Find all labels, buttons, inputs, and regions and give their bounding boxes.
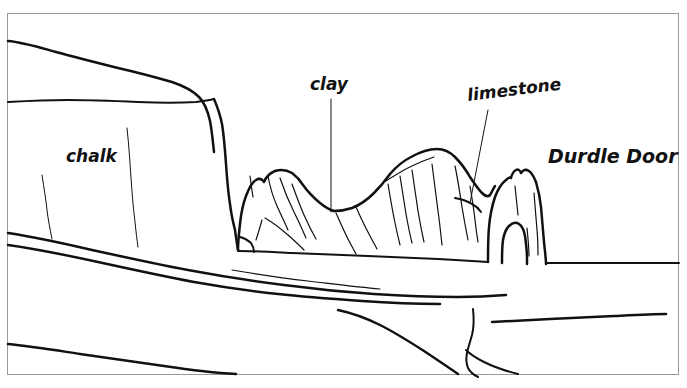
figure-frame — [8, 14, 679, 375]
label-clay: clay — [310, 74, 349, 94]
durdle-door-sketch: chalk clay limestone Durdle Door — [0, 0, 687, 388]
label-chalk: chalk — [66, 146, 118, 166]
figure-canvas: · ·· · · ··· ·· ······ ······ — [0, 0, 687, 388]
label-durdle-door: Durdle Door — [548, 145, 679, 167]
